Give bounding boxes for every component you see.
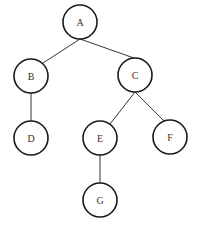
edge-a-c — [80, 39, 134, 58]
node-label: G — [96, 195, 103, 206]
node-label: E — [97, 133, 103, 144]
nodes-group: ABCDEFG — [14, 5, 187, 217]
node-c: C — [118, 58, 152, 92]
node-b: B — [14, 59, 48, 93]
node-label: D — [27, 133, 34, 144]
tree-diagram: ABCDEFG — [0, 0, 201, 233]
node-f: F — [153, 120, 187, 154]
node-g: G — [83, 183, 117, 217]
node-label: B — [28, 71, 35, 82]
edge-c-f — [135, 92, 164, 121]
node-d: D — [14, 121, 48, 155]
node-label: A — [76, 17, 84, 28]
node-label: C — [132, 70, 139, 81]
node-e: E — [83, 121, 117, 155]
node-label: F — [167, 132, 173, 143]
edge-a-b — [43, 39, 80, 63]
node-a: A — [63, 5, 97, 39]
edge-c-e — [110, 92, 135, 124]
